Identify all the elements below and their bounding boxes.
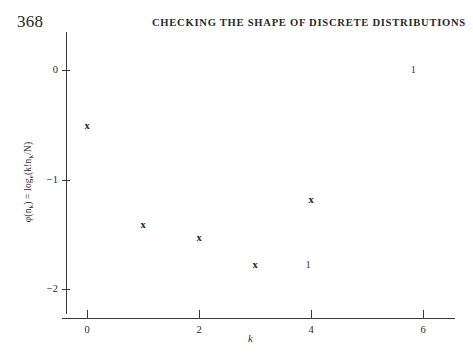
- y-axis-tick-label-minus1: −1: [36, 174, 58, 185]
- x-axis-tick-6: [423, 310, 424, 318]
- plot-area: 0 −1 −2 0 2 4 6 φ(nk) = loge(k!nk/N) k x…: [0, 0, 473, 359]
- x-axis-tick-2: [199, 310, 200, 318]
- data-point-k1: x: [140, 220, 145, 231]
- y-axis-tick-minus2: [62, 289, 70, 290]
- x-axis-tick-label-2: 2: [184, 324, 214, 335]
- y-axis-tick-minus1: [62, 180, 70, 181]
- y-axis-title-phi: φ(n: [23, 208, 33, 222]
- y-axis-title-arg: (k!n: [23, 159, 33, 175]
- y-axis-title-phi-close: ) = log: [23, 178, 33, 204]
- data-point-k2: x: [196, 232, 201, 243]
- data-point-k3: x: [252, 260, 257, 271]
- x-axis-title: k: [248, 333, 253, 344]
- y-axis-tick-label-0: 0: [40, 64, 58, 75]
- data-point-k0: x: [84, 121, 89, 132]
- x-axis-tick-label-4: 4: [296, 324, 326, 335]
- annotation-count-upper-right: 1: [411, 65, 416, 76]
- y-axis-tick-0: [62, 70, 70, 71]
- x-axis-line: [62, 318, 455, 319]
- y-axis-line: [66, 32, 67, 314]
- x-axis-tick-label-6: 6: [408, 324, 438, 335]
- x-axis-tick-label-0: 0: [72, 324, 102, 335]
- y-axis-tick-label-minus2: −2: [36, 283, 58, 294]
- x-axis-tick-4: [311, 310, 312, 318]
- y-axis-title-phi-sub: k: [27, 205, 35, 209]
- data-point-k4: x: [308, 195, 313, 206]
- x-axis-tick-0: [87, 310, 88, 318]
- annotation-count-lower-right: 1: [306, 260, 311, 271]
- y-axis-title: φ(nk) = loge(k!nk/N): [23, 142, 33, 223]
- y-axis-title-log-sub: e: [27, 175, 35, 178]
- y-axis-title-arg-close: /N): [23, 142, 33, 155]
- poissonness-plot-figure: 0 −1 −2 0 2 4 6 φ(nk) = loge(k!nk/N) k x…: [0, 0, 473, 359]
- y-axis-title-arg-sub: k: [27, 155, 35, 159]
